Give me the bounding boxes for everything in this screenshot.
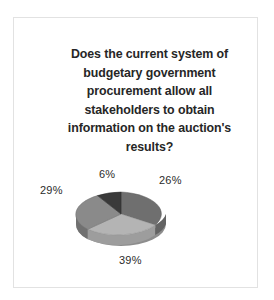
pie-data-label-6: 6% [99, 168, 115, 180]
chart-title-line-2: budgetary government [34, 64, 265, 83]
chart-title-line-6: results? [34, 138, 265, 157]
chart-title-line-5: information on the auction's [34, 119, 265, 138]
pie-data-label-26: 26% [159, 174, 182, 186]
pie-chart-plot-area: 6% 26% 29% 39% [27, 163, 272, 293]
pie-chart-graphic [71, 187, 183, 255]
chart-title-line-3: procurement allow all [34, 82, 265, 101]
chart-title-line-1: Does the current system of [34, 45, 265, 64]
pie-top-face [76, 192, 162, 235]
chart-title: Does the current system of budgetary gov… [34, 45, 265, 157]
pie-data-label-39: 39% [119, 254, 142, 266]
chart-title-line-4: stakeholders to obtain [34, 101, 265, 120]
chart-frame: Does the current system of budgetary gov… [13, 17, 258, 288]
pie-data-label-29: 29% [40, 184, 63, 196]
